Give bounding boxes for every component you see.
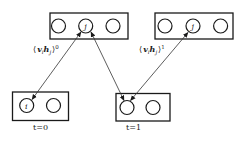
hidden-layer-t1: j [155, 13, 233, 39]
edge-vi0-hj0 [32, 32, 81, 100]
visible-node-i [120, 101, 134, 115]
hidden-node-1 [158, 19, 172, 33]
visible-node-i-label: i [25, 102, 28, 111]
time-label-t0: t=0 [33, 123, 48, 132]
hidden-layer-t0: j [50, 13, 128, 39]
visible-node-2 [146, 101, 160, 115]
visible-layer-t1: t=1 [116, 94, 170, 133]
correlation-label-t1: ⟨vihj⟩1 [139, 44, 165, 56]
time-label-t1: t=1 [126, 123, 141, 132]
rbm-diagram: j j i t=0 t=1 [0, 0, 243, 142]
edge-hj1-vi1 [131, 33, 189, 101]
hidden-node-3 [106, 19, 120, 33]
visible-node-2 [47, 99, 61, 113]
visible-layer-t0: i t=0 [13, 92, 69, 132]
hidden-node-3 [214, 19, 228, 33]
correlation-label-t0: ⟨vihj⟩0 [33, 44, 59, 56]
hidden-node-1 [52, 19, 66, 33]
edge-hj0-vi1 [91, 32, 124, 101]
